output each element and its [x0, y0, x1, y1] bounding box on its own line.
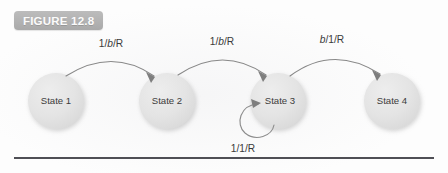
- figure-number-label: FIGURE 12.8: [23, 15, 94, 27]
- figure-number-badge: FIGURE 12.8: [14, 11, 103, 30]
- node-label: State 3: [265, 95, 295, 106]
- node-state4[interactable]: State 4: [364, 73, 420, 129]
- node-label: State 2: [152, 95, 182, 106]
- transition-state3-state4[interactable]: b/1/R: [290, 34, 381, 81]
- node-state3[interactable]: State 3: [250, 73, 306, 129]
- transition-label: 1/b/R: [210, 36, 234, 47]
- transition-arc: [66, 62, 154, 77]
- transition-arc: [290, 59, 380, 76]
- transition-state1-state2[interactable]: 1/b/R: [66, 38, 155, 83]
- node-label: State 1: [41, 95, 71, 106]
- node-state1[interactable]: State 1: [28, 73, 84, 129]
- node-state2[interactable]: State 2: [139, 73, 195, 129]
- transition-arc: [178, 60, 266, 75]
- transition-label: 1/b/R: [99, 38, 123, 49]
- figure-bottom-rule: [14, 157, 434, 159]
- transition-label: 1/1/R: [231, 143, 255, 154]
- figure-panel: FIGURE 12.8 State 1 State 2 State 3: [0, 0, 448, 173]
- transition-state2-state3[interactable]: 1/b/R: [178, 36, 267, 82]
- transition-label: b/1/R: [320, 34, 344, 45]
- node-label: State 4: [377, 95, 408, 106]
